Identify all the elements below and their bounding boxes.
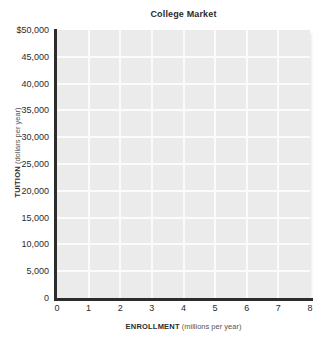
x-axis-tick-label: 2 xyxy=(118,303,123,313)
y-axis-title-unit: (dollars per year) xyxy=(13,107,22,164)
plot-area-wrapper xyxy=(57,30,310,298)
gridline-horizontal xyxy=(57,109,310,111)
gridline-horizontal xyxy=(57,217,310,219)
y-axis-tick-label: 40,000 xyxy=(2,79,54,89)
gridline-horizontal xyxy=(57,243,310,245)
x-axis-tick-label: 7 xyxy=(276,303,281,313)
x-axis-title-unit: (millions per year) xyxy=(182,322,242,331)
y-axis-tick-label: 35,000 xyxy=(2,105,54,115)
x-axis-tick-label: 8 xyxy=(307,303,312,313)
y-axis-tick-label: 10,000 xyxy=(2,239,54,249)
y-axis-tick-label: 20,000 xyxy=(2,186,54,196)
y-axis-tick-label: 15,000 xyxy=(2,213,54,223)
y-axis-tick-label: 45,000 xyxy=(2,52,54,62)
x-axis-tick-label: 1 xyxy=(86,303,91,313)
y-axis-tick-label: 5,000 xyxy=(2,266,54,276)
x-axis-tick-label: 4 xyxy=(181,303,186,313)
gridline-horizontal xyxy=(57,270,310,272)
y-axis-line xyxy=(54,29,57,301)
gridline-horizontal xyxy=(57,163,310,165)
gridline-horizontal xyxy=(57,56,310,58)
y-axis-title-bold: TUITION xyxy=(13,166,22,197)
plot-area xyxy=(57,30,310,298)
y-axis-tick-label: $50,000 xyxy=(2,25,54,35)
y-axis-title: TUITION (dollars per year) xyxy=(13,78,22,228)
gridline-horizontal xyxy=(57,83,310,85)
x-axis-tick-label: 6 xyxy=(244,303,249,313)
y-axis-tick-label: 25,000 xyxy=(2,159,54,169)
gridline-horizontal xyxy=(57,190,310,192)
chart-title: College Market xyxy=(57,9,310,19)
x-axis-tick-label: 0 xyxy=(54,303,59,313)
x-axis-tick-label: 3 xyxy=(149,303,154,313)
x-axis-title: ENROLLMENT (millions per year) xyxy=(57,322,310,331)
x-axis-tick-label: 5 xyxy=(213,303,218,313)
y-axis-tick-label: 30,000 xyxy=(2,132,54,142)
y-axis-tick-label: 0 xyxy=(2,293,54,303)
x-axis-title-bold: ENROLLMENT xyxy=(126,322,180,331)
y-axis-tick-labels: $50,00045,00040,00035,00030,00025,00020,… xyxy=(0,0,54,350)
x-axis-line xyxy=(54,298,313,301)
gridline-horizontal xyxy=(57,136,310,138)
